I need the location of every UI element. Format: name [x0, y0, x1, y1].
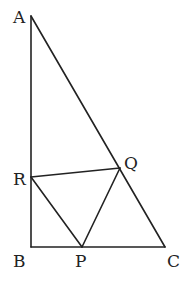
triangle-diagram: A R Q B P C — [0, 0, 185, 283]
label-a: A — [12, 7, 26, 27]
label-c: C — [167, 251, 180, 271]
label-r: R — [13, 169, 27, 189]
segment-pq — [82, 168, 120, 247]
segment-rq — [31, 168, 120, 177]
segments — [31, 16, 165, 247]
label-b: B — [13, 251, 26, 271]
label-q: Q — [124, 153, 138, 173]
label-p: P — [75, 251, 86, 271]
point-labels: A R Q B P C — [12, 7, 180, 271]
segment-rp — [31, 177, 82, 247]
